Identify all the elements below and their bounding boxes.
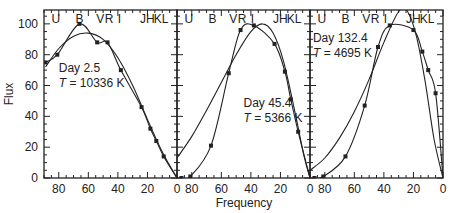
x-tick-label: 60 [82, 182, 96, 196]
data-point-marker [55, 53, 59, 57]
band-label-I: I [118, 12, 121, 26]
y-tick-label: 20 [25, 140, 39, 154]
x-tick-label: 40 [244, 182, 258, 196]
data-point-marker [376, 45, 380, 49]
data-point-marker [321, 174, 325, 178]
x-tick-label: 20 [274, 182, 288, 196]
blackbody-fit-curve [46, 33, 178, 178]
band-label-L: L [428, 12, 435, 26]
x-axis-title: Frequency [216, 196, 273, 210]
temperature-annotation: T = 5366 K [244, 111, 303, 125]
chart-panels: 806040200UBVRIJHKLDay 2.5T = 10336 K8060… [43, 8, 446, 196]
x-tick-label: 0 [174, 182, 181, 196]
sed-chart-figure: Flux 020406080100 806040200UBVRIJHKLDay … [0, 0, 461, 213]
y-tick-label: 40 [25, 109, 39, 123]
data-point-marker [188, 174, 192, 178]
band-label-K: K [420, 12, 428, 26]
day-annotation: Day 2.5 [59, 61, 101, 75]
chart-panel-2: 806040200UBVRIJHKLDay 45.4T = 5366 K [177, 10, 314, 196]
band-label-K: K [154, 12, 162, 26]
x-tick-label: 60 [348, 182, 362, 196]
x-tick-label: 60 [215, 182, 229, 196]
data-point-marker [77, 22, 81, 26]
y-axis-title: Flux [2, 83, 16, 106]
data-point-marker [209, 144, 213, 148]
band-label-B: B [208, 12, 216, 26]
band-label-V: V [96, 12, 104, 26]
band-label-U: U [317, 12, 326, 26]
x-tick-label: 80 [52, 182, 66, 196]
x-tick-label: 20 [407, 182, 421, 196]
band-label-I: I [384, 12, 387, 26]
x-axis-label: Frequency [216, 196, 273, 210]
y-tick-label: 0 [31, 171, 38, 185]
y-axis-label: Flux [2, 83, 16, 106]
data-point-marker [179, 176, 183, 180]
x-tick-label: 80 [185, 182, 199, 196]
temperature-annotation: T = 4695 K [313, 46, 372, 60]
data-point-marker [363, 104, 367, 108]
data-point-marker [239, 28, 243, 32]
band-label-K: K [287, 12, 295, 26]
chart-panel-1: 806040200UBVRIJHKLDay 2.5T = 10336 K [43, 10, 180, 196]
data-point-marker [434, 91, 438, 95]
x-tick-label: 0 [440, 182, 447, 196]
data-point-marker [426, 68, 430, 72]
band-label-V: V [362, 12, 370, 26]
y-tick-label: 80 [25, 48, 39, 62]
observed-curve [46, 24, 178, 178]
band-label-U: U [51, 12, 60, 26]
data-point-marker [343, 154, 347, 158]
data-point-marker [420, 50, 424, 54]
data-point-marker [95, 40, 99, 44]
data-point-marker [312, 176, 316, 180]
data-point-marker [273, 42, 277, 46]
x-tick-label: 40 [111, 182, 125, 196]
day-annotation: Day 45.4 [244, 96, 292, 110]
panel-frame [44, 10, 177, 178]
band-label-B: B [341, 12, 349, 26]
y-tick-label: 60 [25, 79, 39, 93]
x-tick-label: 0 [307, 182, 314, 196]
band-label-V: V [229, 12, 237, 26]
band-label-L: L [162, 12, 169, 26]
chart-panel-3: 806040200UBVRIJHKLDay 132.4T = 4695 K [310, 8, 447, 196]
x-tick-label: 80 [318, 182, 332, 196]
data-point-marker [119, 68, 123, 72]
data-point-marker [43, 60, 47, 64]
x-tick-label: 40 [377, 182, 391, 196]
band-label-L: L [295, 12, 302, 26]
y-axis: 020406080100 [18, 17, 38, 185]
band-label-R: R [105, 12, 114, 26]
day-annotation: Day 132.4 [313, 31, 368, 45]
temperature-annotation: T = 10336 K [59, 76, 125, 90]
band-label-U: U [184, 12, 193, 26]
x-tick-label: 20 [141, 182, 155, 196]
band-label-R: R [371, 12, 380, 26]
y-tick-label: 100 [18, 17, 38, 31]
